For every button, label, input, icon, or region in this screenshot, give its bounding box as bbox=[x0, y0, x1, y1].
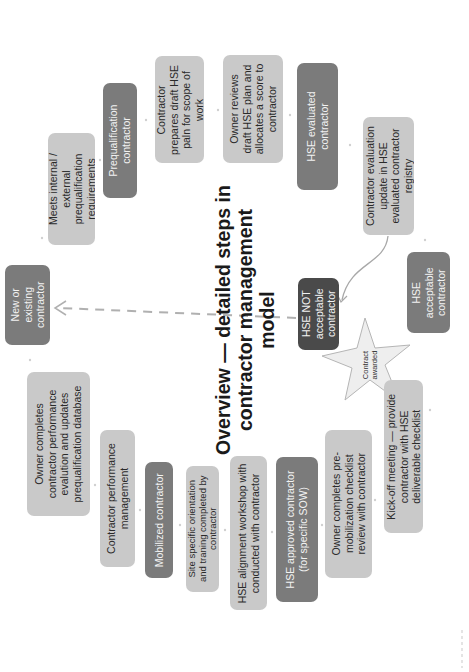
node-hse-approved[interactable]: HSE approved contractor(for specific SOW… bbox=[276, 457, 318, 602]
node-text: awarded bbox=[370, 351, 379, 380]
node-text: contractor bbox=[435, 267, 448, 318]
node-text: acceptable bbox=[422, 267, 435, 318]
node-text: Meets internal / bbox=[48, 153, 59, 225]
node-text: deliverable checklist bbox=[410, 394, 423, 520]
node-text: HSE approved contractor bbox=[285, 471, 298, 589]
node-text: contractor bbox=[208, 476, 219, 583]
node-contractor-draft-hse[interactable]: Contractorprepares draft HSEpaln for sco… bbox=[155, 56, 204, 163]
node-mobilized-contractor[interactable]: Mobilized contractor bbox=[145, 462, 173, 578]
node-text: Contractor bbox=[155, 65, 167, 155]
title-line-3: model bbox=[256, 185, 278, 455]
node-owner-reviews[interactable]: Owner reviewsdraft HSE plan andallocates… bbox=[223, 55, 283, 163]
node-premobilization-checklist[interactable]: Owner completes pre-mobilization checkli… bbox=[325, 430, 372, 578]
node-hse-acceptable[interactable]: HSEacceptablecontractor bbox=[407, 252, 450, 333]
node-text: prepares draft HSE bbox=[167, 65, 180, 155]
node-text: update in HSE bbox=[376, 126, 389, 226]
title-line-1: Overview — detailed steps in bbox=[212, 185, 234, 455]
node-site-orientation[interactable]: Site specific orientationand traning com… bbox=[186, 466, 219, 592]
node-performance-management[interactable]: Contractor performancemanagement bbox=[100, 430, 135, 567]
node-text: paln for scope of bbox=[180, 65, 193, 155]
node-text: Mobilized contractor bbox=[153, 473, 166, 567]
node-text: evalution and updates bbox=[59, 386, 72, 503]
diagram-title: Overview — detailed steps in contractor … bbox=[190, 170, 300, 470]
node-text: Kick-off meeting — provide bbox=[385, 394, 398, 520]
node-text: contractor bbox=[318, 91, 331, 161]
node-evaluation-update[interactable]: Contractor evaluationupdate in HSEevalua… bbox=[363, 117, 414, 235]
curved-arrow bbox=[342, 236, 388, 300]
node-text: contractor bbox=[325, 289, 338, 340]
node-text: contractor bbox=[266, 64, 279, 154]
node-text: Prequalification bbox=[108, 105, 121, 177]
node-text: Contract bbox=[361, 351, 370, 380]
node-performance-evaluation[interactable]: Owner completescontractor performanceeva… bbox=[27, 372, 90, 516]
node-text: management bbox=[118, 443, 131, 554]
node-hse-evaluated[interactable]: HSE evaluatedcontractor bbox=[297, 63, 338, 190]
node-text: review with contractor bbox=[355, 452, 368, 555]
node-text: mobilization checklist bbox=[342, 452, 355, 555]
node-text: Owner completes pre- bbox=[330, 452, 343, 555]
node-hse-not-acceptable[interactable]: HSE NOTacceptablecontractor bbox=[298, 278, 339, 350]
node-text: work bbox=[192, 65, 204, 155]
node-text: HSE alignment workshop with bbox=[236, 463, 249, 602]
node-kickoff-meeting[interactable]: Kick-off meeting — providecontractor wit… bbox=[384, 380, 423, 533]
node-text: existing bbox=[21, 282, 34, 329]
node-alignment-workshop[interactable]: HSE alignment workshop withconducted wit… bbox=[230, 456, 267, 610]
node-text: prequalification bbox=[72, 153, 85, 225]
node-text: Contractor performance bbox=[105, 443, 118, 554]
node-text: HSE NOT bbox=[300, 289, 313, 340]
node-text: New or bbox=[9, 282, 22, 329]
node-text: draft HSE plan and bbox=[241, 64, 254, 154]
node-text: prequalification database bbox=[71, 386, 84, 503]
node-text: contractor with HSE bbox=[397, 394, 410, 520]
node-text: contractor performance bbox=[46, 386, 59, 503]
node-text: Owner completes bbox=[34, 386, 47, 503]
node-text: evaluated contractor bbox=[389, 126, 402, 226]
node-text: Contractor evaluation bbox=[364, 126, 377, 226]
node-text: external bbox=[59, 153, 72, 225]
node-text: (for specific SOW) bbox=[297, 471, 310, 589]
node-text: HSE bbox=[410, 267, 423, 318]
node-text: requirements bbox=[84, 153, 95, 225]
title-line-2: contractor management bbox=[234, 185, 256, 455]
node-text: contractor bbox=[34, 282, 47, 329]
node-text: Owner reviews bbox=[228, 64, 241, 154]
node-text: allocates a score to bbox=[253, 64, 266, 154]
node-text: registry bbox=[401, 126, 414, 226]
node-text: acceptable bbox=[312, 289, 325, 340]
node-text: conducted with contractor bbox=[249, 463, 262, 602]
node-meets-requirements[interactable]: Meets internal /externalprequalification… bbox=[48, 133, 95, 245]
node-text: contractor bbox=[120, 105, 133, 177]
node-prequalification-contractor[interactable]: Prequalificationcontractor bbox=[103, 83, 137, 198]
node-new-existing-contractor[interactable]: New orexistingcontractor bbox=[5, 265, 50, 345]
node-text: HSE evaluated bbox=[305, 91, 318, 161]
